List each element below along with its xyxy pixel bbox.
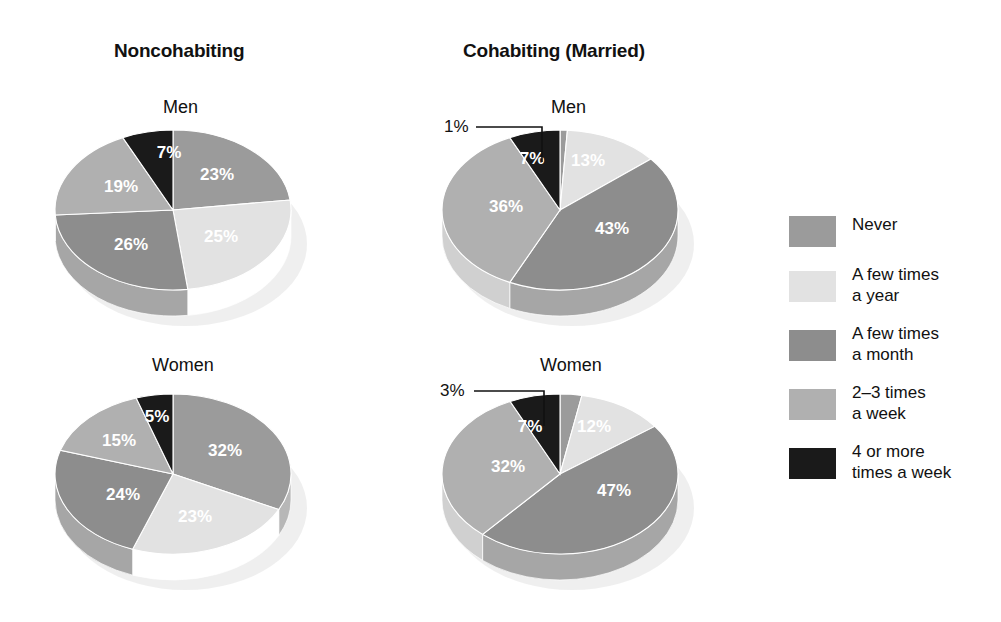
panel-title-cohabiting-men: Men [551, 97, 586, 118]
legend-swatch-never [789, 216, 836, 247]
legend: Never A few times a year A few times a m… [789, 214, 994, 483]
legend-item-never[interactable]: Never [789, 214, 994, 247]
panel-title-cohabiting-women: Women [540, 355, 602, 376]
pie-chart-cohabiting-women: 12%47%32%7%3% [432, 382, 732, 592]
legend-swatch-four-or-more-times-a-week [789, 448, 836, 479]
pie-svg-cohabiting-men: 13%43%36%7%1% [432, 118, 732, 318]
pie-slice-label: 12% [577, 417, 611, 436]
panel-title-noncohabiting-women: Women [152, 355, 214, 376]
pie-slice-label: 7% [157, 143, 182, 162]
legend-swatch-few-times-a-year [789, 271, 836, 302]
pie-svg-cohabiting-women: 12%47%32%7%3% [432, 382, 732, 592]
pie-slice-label: 23% [178, 507, 212, 526]
pie-chart-cohabiting-men: 13%43%36%7%1% [432, 118, 732, 318]
legend-label-never: Never [852, 214, 897, 235]
pie-slice-label: 25% [204, 227, 238, 246]
pie-slice-label: 7% [520, 149, 545, 168]
legend-swatch-two-to-three-times-a-week [789, 389, 836, 420]
legend-swatch-few-times-a-month [789, 330, 836, 361]
pie-slice-label: 24% [106, 485, 140, 504]
pie-slice-label: 15% [102, 431, 136, 450]
pie-slice-label: 36% [489, 197, 523, 216]
pie-chart-noncohabiting-women: 32%23%24%15%5% [45, 382, 345, 592]
callout-label: 1% [444, 117, 469, 136]
pie-slice-label: 7% [518, 417, 543, 436]
legend-label-two-to-three-times-a-week: 2–3 times a week [852, 382, 926, 424]
panel-title-noncohabiting-men: Men [163, 97, 198, 118]
pie-slice-label: 23% [200, 165, 234, 184]
pie-chart-noncohabiting-men: 23%25%26%19%7% [45, 118, 345, 318]
pie-svg-noncohabiting-men: 23%25%26%19%7% [45, 118, 345, 318]
legend-label-four-or-more-times-a-week: 4 or more times a week [852, 441, 951, 483]
figure-canvas: Noncohabiting Cohabiting (Married) Men M… [0, 0, 1001, 622]
legend-item-four-or-more-times-a-week[interactable]: 4 or more times a week [789, 441, 994, 483]
pie-slice-label: 19% [104, 177, 138, 196]
pie-slice-label: 47% [597, 481, 631, 500]
pie-slice-label: 32% [208, 441, 242, 460]
column-title-cohabiting: Cohabiting (Married) [463, 40, 645, 62]
pie-slice-label: 32% [491, 457, 525, 476]
legend-label-few-times-a-month: A few times a month [852, 323, 939, 365]
legend-item-two-to-three-times-a-week[interactable]: 2–3 times a week [789, 382, 994, 424]
callout-label: 3% [440, 381, 465, 400]
pie-slice-label: 26% [114, 235, 148, 254]
pie-slice-label: 43% [595, 219, 629, 238]
legend-label-few-times-a-year: A few times a year [852, 264, 939, 306]
legend-item-few-times-a-year[interactable]: A few times a year [789, 264, 994, 306]
pie-svg-noncohabiting-women: 32%23%24%15%5% [45, 382, 345, 592]
legend-item-few-times-a-month[interactable]: A few times a month [789, 323, 994, 365]
pie-slice-label: 13% [571, 151, 605, 170]
column-title-noncohabiting: Noncohabiting [114, 40, 244, 62]
pie-slice-label: 5% [145, 407, 170, 426]
